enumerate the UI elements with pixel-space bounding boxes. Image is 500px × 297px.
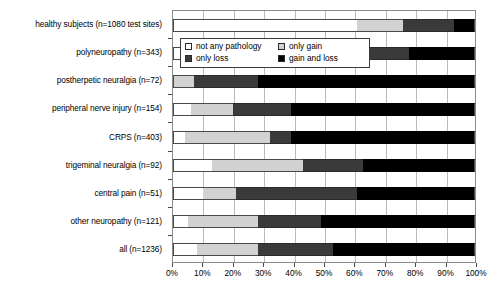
bar-segment-only-loss (233, 103, 290, 116)
bar-3 (173, 103, 475, 116)
x-axis-tick-labels: 0%10%20%30%40%50%60%70%80%90%100% (172, 268, 476, 282)
x-tick (172, 263, 173, 267)
legend-item: gain and loss (278, 53, 365, 64)
category-label: CRPS (n=403) (109, 132, 162, 142)
bar-segment-only-loss (194, 75, 257, 88)
bar-segment-gain-and-loss (357, 187, 475, 200)
bar-segment-only-gain (203, 187, 236, 200)
bar-segment-only-loss (270, 131, 291, 144)
x-tick-label: 40% (285, 268, 302, 279)
category-label: other neuropathy (n=121) (71, 216, 162, 226)
bar-8 (173, 243, 475, 256)
bar-5 (173, 159, 475, 172)
x-tick (233, 263, 234, 267)
bar-segment-only-gain (357, 19, 402, 32)
x-tick-label: 80% (407, 268, 424, 279)
bar-segment-only-loss (403, 19, 454, 32)
legend-swatch-icon (278, 55, 285, 62)
x-tick (294, 263, 295, 267)
legend-swatch-icon (185, 55, 192, 62)
bar-segment-only-loss (258, 215, 321, 228)
category-label: healthy subjects (n=1080 test sites) (35, 19, 162, 29)
category-label: postherpetic neuralgia (n=72) (57, 75, 162, 85)
bar-segment-gain-and-loss (454, 19, 475, 32)
x-tick (476, 263, 477, 267)
category-label: central pain (n=51) (94, 188, 162, 198)
category-axis-labels: healthy subjects (n=1080 test sites)poly… (0, 0, 168, 297)
category-label: polyneuropathy (n=343) (76, 47, 162, 57)
legend-swatch-icon (278, 43, 285, 50)
bar-segment-not-any-pathology (173, 215, 188, 228)
bar-segment-gain-and-loss (321, 215, 475, 228)
bar-0 (173, 19, 475, 32)
x-tick-label: 30% (255, 268, 272, 279)
bar-segment-only-loss (236, 187, 357, 200)
x-tick-label: 70% (376, 268, 393, 279)
bar-7 (173, 215, 475, 228)
legend-swatch-icon (185, 43, 192, 50)
stacked-bar-chart-figure: healthy subjects (n=1080 test sites)poly… (0, 0, 500, 297)
x-tick (385, 263, 386, 267)
legend-label: not any pathology (196, 41, 262, 52)
legend-item: only loss (185, 53, 272, 64)
chart-legend: not any pathologyonly gainonly lossgain … (180, 38, 370, 68)
x-tick (263, 263, 264, 267)
bar-segment-not-any-pathology (173, 131, 185, 144)
bar-segment-not-any-pathology (173, 103, 191, 116)
x-tick (202, 263, 203, 267)
bar-segment-only-loss (258, 243, 334, 256)
x-tick-label: 100% (465, 268, 486, 279)
x-tick-label: 90% (437, 268, 454, 279)
x-tick-label: 0% (166, 268, 178, 279)
bar-segment-only-gain (185, 131, 270, 144)
category-label: all (n=1236) (119, 244, 162, 254)
bar-segment-gain-and-loss (409, 47, 475, 60)
x-tick (415, 263, 416, 267)
x-tick-label: 50% (316, 268, 333, 279)
legend-item: not any pathology (185, 41, 272, 52)
bar-segment-only-gain (197, 243, 257, 256)
legend-label: only gain (289, 41, 322, 52)
bar-segment-not-any-pathology (173, 159, 212, 172)
category-label: trigeminal neuralgia (n=92) (66, 160, 162, 170)
x-tick (324, 263, 325, 267)
bar-segment-gain-and-loss (291, 131, 475, 144)
bar-segment-only-gain (191, 103, 233, 116)
legend-label: gain and loss (289, 53, 338, 64)
bar-segment-not-any-pathology (173, 187, 203, 200)
x-tick-label: 10% (194, 268, 211, 279)
x-tick-label: 60% (346, 268, 363, 279)
bar-2 (173, 75, 475, 88)
bar-segment-not-any-pathology (173, 243, 197, 256)
bar-segment-not-any-pathology (173, 19, 357, 32)
x-tick (354, 263, 355, 267)
bar-segment-gain-and-loss (258, 75, 475, 88)
legend-item: only gain (278, 41, 365, 52)
bar-segment-only-gain (188, 215, 257, 228)
x-tick-label: 20% (224, 268, 241, 279)
bar-6 (173, 187, 475, 200)
bar-segment-gain-and-loss (291, 103, 475, 116)
bar-segment-gain-and-loss (363, 159, 475, 172)
legend-label: only loss (196, 53, 228, 64)
bar-segment-only-loss (303, 159, 363, 172)
bar-segment-gain-and-loss (333, 243, 475, 256)
bar-segment-only-gain (173, 75, 194, 88)
bar-segment-only-gain (212, 159, 303, 172)
x-tick (446, 263, 447, 267)
bar-4 (173, 131, 475, 144)
category-label: peripheral nerve injury (n=154) (52, 103, 162, 113)
